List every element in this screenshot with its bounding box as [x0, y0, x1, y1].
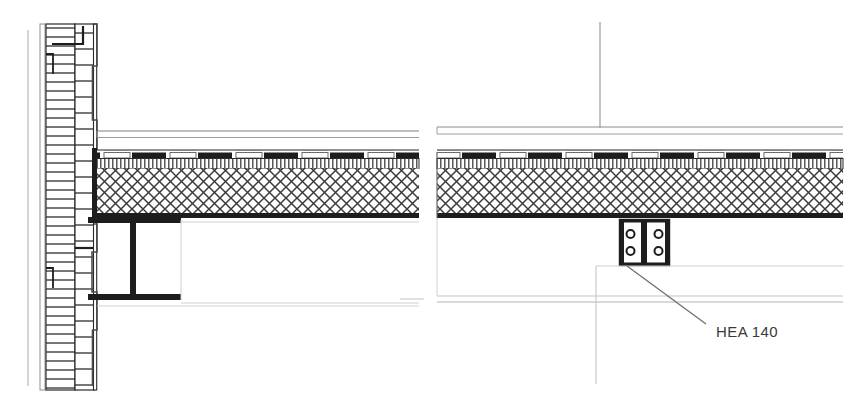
bolt-hole-bottom-left	[627, 247, 635, 255]
cad-drawing-canvas: HEA 140	[0, 0, 849, 403]
bolt-hole-top-left	[627, 230, 635, 238]
slab-core-crosshatch	[437, 169, 843, 214]
column-bottom-plate	[619, 263, 670, 267]
i-beam-web	[130, 223, 136, 295]
column-web	[641, 219, 647, 266]
i-beam-top-flange	[88, 217, 181, 223]
hea-140-label: HEA 140	[716, 323, 778, 340]
bolt-hole-top-right	[655, 230, 663, 238]
technical-drawing-svg: HEA 140	[0, 0, 849, 403]
wall-cavity-insulation	[75, 24, 94, 390]
column-top-plate	[619, 219, 670, 223]
column-right-flange	[665, 219, 670, 266]
slab-top-insulation-band	[437, 151, 843, 159]
wall-outer-leaf	[40, 24, 45, 390]
left-floor-slab	[92, 148, 419, 220]
slab-screed-band	[437, 159, 843, 169]
right-floor-slab	[437, 150, 843, 218]
slab-soffit-line	[437, 213, 843, 218]
column-left-flange	[619, 219, 624, 266]
bolt-hole-bottom-right	[655, 247, 663, 255]
i-beam-bottom-flange	[88, 294, 181, 300]
hea-140-column-section	[619, 219, 670, 266]
slab-edge-closure	[92, 148, 97, 220]
slab-core-crosshatch	[97, 169, 419, 214]
wall-masonry-leaf	[46, 24, 75, 390]
slab-screed-band	[97, 159, 419, 169]
slab-top-insulation-band	[97, 151, 419, 159]
